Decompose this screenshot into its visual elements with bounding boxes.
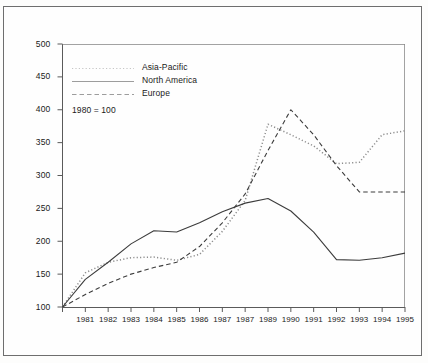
y-tick-label: 400 [25, 104, 51, 114]
data-series-group [63, 110, 406, 307]
legend-base-year-note: 1980 = 100 [72, 105, 222, 115]
legend-item-north-america: North America [72, 75, 222, 88]
chart-legend: Asia-Pacific North America Europe 1980 =… [72, 62, 222, 115]
y-tick-label: 500 [25, 39, 51, 49]
plot-canvas [0, 0, 428, 363]
legend-swatch-dashed [72, 94, 134, 95]
legend-item-asia-pacific: Asia-Pacific [72, 62, 222, 75]
y-tick-label: 100 [25, 302, 51, 312]
legend-label-asia-pacific: Asia-Pacific [142, 62, 188, 72]
legend-swatch-dotted [72, 68, 134, 69]
x-tick-label: 1995 [390, 315, 420, 324]
y-tick-label: 200 [25, 236, 51, 246]
legend-item-europe: Europe [72, 88, 222, 101]
y-axis-ticks [58, 44, 63, 307]
y-tick-label: 300 [25, 170, 51, 180]
y-tick-label: 350 [25, 137, 51, 147]
y-tick-label: 450 [25, 71, 51, 81]
legend-label-north-america: North America [142, 75, 197, 85]
legend-swatch-solid [72, 81, 134, 82]
chart-figure: 100150200250300350400450500 198119821983… [0, 0, 428, 363]
y-tick-label: 150 [25, 269, 51, 279]
legend-label-europe: Europe [142, 88, 170, 98]
y-tick-label: 250 [25, 203, 51, 213]
series-line-europe [63, 110, 406, 307]
series-line-asia-pacific [63, 124, 406, 307]
